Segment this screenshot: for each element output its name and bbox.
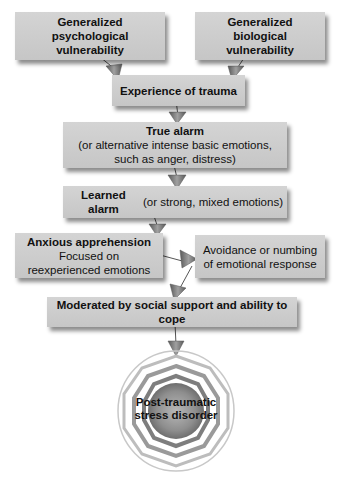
node-trauma-label: Experience of trauma xyxy=(120,84,237,98)
node-truealarm-line2: such as anger, distress) xyxy=(114,152,235,166)
node-anxious-line2: reexperienced emotions xyxy=(28,263,151,277)
node-anxious-apprehension: Anxious apprehension Focused on reexperi… xyxy=(15,233,163,278)
node-learned-detail: (or strong, mixed emotions) xyxy=(140,195,283,209)
node-psych-line2: psychological vulnerability xyxy=(19,29,161,57)
node-avoidance-line1: Avoidance or numbing xyxy=(203,243,317,257)
arrow-avoidance-to-moderated xyxy=(170,266,192,300)
node-ptsd: Post-traumatic stress disorder xyxy=(126,396,226,422)
node-bio-line2: biological vulnerability xyxy=(199,29,321,57)
node-moderated-label: Moderated by social support and ability … xyxy=(51,298,293,326)
node-psychological-vulnerability: Generalized psychological vulnerability xyxy=(15,12,165,60)
node-bio-line1: Generalized xyxy=(227,15,292,29)
node-psych-line1: Generalized xyxy=(57,15,122,29)
node-avoidance-line2: of emotional response xyxy=(203,257,316,271)
node-biological-vulnerability: Generalized biological vulnerability xyxy=(195,12,325,60)
node-moderated: Moderated by social support and ability … xyxy=(47,297,297,327)
node-avoidance: Avoidance or numbing of emotional respon… xyxy=(195,235,325,278)
node-anxious-title: Anxious apprehension xyxy=(27,235,151,249)
arrow-anxious-to-avoidance xyxy=(160,250,197,268)
node-experience-of-trauma: Experience of trauma xyxy=(112,75,245,106)
node-ptsd-line1: Post-traumatic xyxy=(126,396,226,409)
node-learned-title: Learned alarm xyxy=(67,188,140,216)
node-truealarm-line1: (or alternative intense basic emotions, xyxy=(78,138,272,152)
node-anxious-line1: Focused on xyxy=(59,249,119,263)
node-truealarm-title: True alarm xyxy=(146,124,204,138)
node-ptsd-line2: stress disorder xyxy=(126,409,226,422)
node-learned-alarm: Learned alarm (or strong, mixed emotions… xyxy=(63,186,287,218)
node-true-alarm: True alarm (or alternative intense basic… xyxy=(63,122,287,168)
